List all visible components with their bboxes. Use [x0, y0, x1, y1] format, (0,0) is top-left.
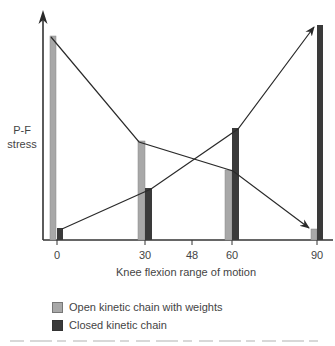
- x-tick-0: 0: [54, 249, 60, 261]
- bar-open-60: [225, 170, 232, 240]
- legend-item-open: Open kinetic chain with weights: [52, 301, 222, 313]
- trend-line-closed: [62, 27, 314, 229]
- legend-item-closed: Closed kinetic chain: [52, 319, 167, 331]
- bar-open-0: [50, 36, 56, 240]
- legend-swatch-open: [52, 302, 63, 313]
- series-open-kinetic-chain: [50, 36, 317, 240]
- legend-swatch-closed: [52, 320, 63, 331]
- x-tick-48: 48: [186, 249, 198, 261]
- x-tick-30: 30: [139, 249, 151, 261]
- y-axis-label-line1: P-F: [13, 124, 31, 136]
- bar-open-30: [138, 141, 145, 240]
- x-axis-label: Knee flexion range of motion: [116, 266, 256, 278]
- bar-closed-0: [57, 228, 63, 240]
- x-tick-90: 90: [311, 249, 323, 261]
- series-closed-kinetic-chain: [57, 25, 323, 240]
- bar-closed-60: [232, 128, 239, 240]
- caption-smudge: [0, 336, 335, 346]
- bar-closed-30: [145, 188, 152, 240]
- x-axis: [43, 240, 333, 245]
- legend-label-open: Open kinetic chain with weights: [69, 301, 222, 313]
- y-axis-label-line2: stress: [7, 138, 37, 150]
- chart-canvas: P-F stress 0 30 48 60 90 Knee flexion ra…: [0, 0, 335, 346]
- y-axis: [39, 10, 48, 240]
- bar-open-90: [311, 229, 317, 240]
- caption-fragment: [0, 336, 335, 346]
- trend-line-open: [51, 37, 309, 228]
- x-tick-60: 60: [226, 249, 238, 261]
- legend-label-closed: Closed kinetic chain: [69, 319, 167, 331]
- bar-closed-90: [317, 25, 323, 240]
